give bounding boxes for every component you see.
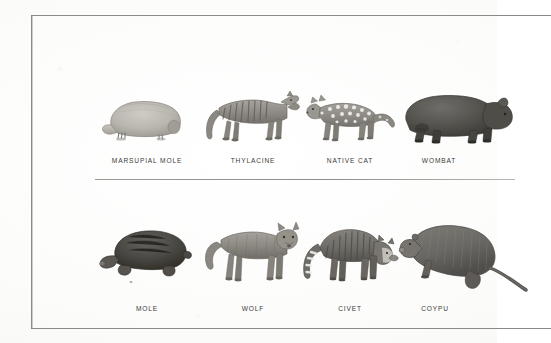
caption-wolf: WOLF bbox=[203, 305, 303, 312]
caption-wombat: WOMBAT bbox=[400, 157, 478, 164]
marsupial-row: MARSUPIAL MOLE bbox=[0, 60, 497, 180]
figure-cell-thylacine: THYLACINE bbox=[203, 60, 303, 180]
figure-cell-coypu: COYPU bbox=[398, 200, 520, 328]
wolf-illustration bbox=[203, 208, 303, 304]
caption-thylacine: THYLACINE bbox=[203, 157, 303, 164]
caption-coypu: COYPU bbox=[398, 305, 472, 312]
coypu-illustration bbox=[398, 208, 520, 304]
figure-cell-marsupial-mole: MARSUPIAL MOLE bbox=[97, 60, 197, 180]
figure-cell-native-cat: NATIVE CAT bbox=[300, 60, 400, 180]
caption-civet: CIVET bbox=[296, 305, 404, 312]
placental-row: MOLE bbox=[0, 200, 497, 328]
caption-marsupial-mole: MARSUPIAL MOLE bbox=[97, 157, 197, 164]
wombat-illustration bbox=[400, 78, 520, 156]
marsupial-mole-illustration bbox=[97, 78, 197, 156]
civet-illustration bbox=[296, 208, 404, 304]
thylacine-illustration bbox=[203, 78, 303, 156]
figure-cell-civet: CIVET bbox=[296, 200, 404, 328]
caption-native-cat: NATIVE CAT bbox=[300, 157, 400, 164]
figure-cell-wombat: WOMBAT bbox=[400, 60, 520, 180]
caption-mole: MOLE bbox=[97, 305, 197, 312]
mole-illustration bbox=[97, 208, 197, 304]
figure-cell-wolf: WOLF bbox=[203, 200, 303, 328]
native-cat-illustration bbox=[300, 78, 400, 156]
figure-cell-mole: MOLE bbox=[97, 200, 197, 328]
